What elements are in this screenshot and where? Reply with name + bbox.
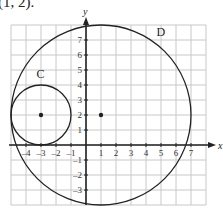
x-tick-label: 1	[99, 148, 104, 158]
y-tick-label: 1	[78, 125, 83, 135]
x-tick-label: 7	[189, 148, 194, 158]
y-tick-label: 5	[78, 65, 83, 75]
y-tick-label: 4	[78, 80, 83, 90]
x-tick-label: 6	[174, 148, 179, 158]
x-tick-label: –2	[51, 148, 61, 158]
x-axis-label: x	[217, 140, 223, 151]
x-tick-label: 4	[144, 148, 149, 158]
circle-label-d: D	[157, 25, 166, 39]
y-axis-label: y	[82, 6, 88, 17]
y-tick-label: –1	[72, 155, 82, 165]
x-tick-label: 5	[159, 148, 164, 158]
x-axis-arrow-icon	[208, 142, 216, 148]
center-point-d	[99, 113, 103, 117]
y-tick-label: –3	[72, 185, 83, 195]
y-axis-arrow-icon	[83, 17, 89, 25]
x-tick-label: 3	[129, 148, 134, 158]
circle-label-c: C	[37, 67, 45, 81]
y-tick-label: 7	[78, 35, 83, 45]
x-tick-label: 2	[114, 148, 119, 158]
y-tick-label: –2	[72, 170, 82, 180]
x-tick-label: –4	[21, 148, 32, 158]
y-tick-label: 3	[78, 95, 83, 105]
x-tick-label: –3	[36, 148, 47, 158]
y-tick-label: 6	[78, 50, 83, 60]
coordinate-plane: xy–4–3–2–112345677654321–1–2–3CD	[0, 0, 223, 218]
center-point-c	[39, 113, 43, 117]
y-tick-label: 2	[78, 110, 83, 120]
